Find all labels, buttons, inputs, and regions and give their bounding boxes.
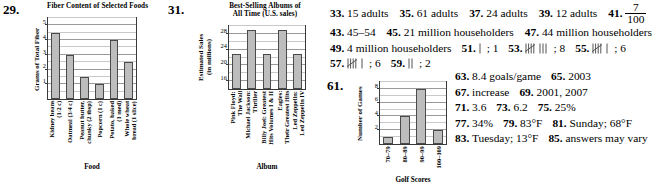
y-axis-label-fiber: Grams of Total Fiber xyxy=(33,18,43,100)
answer-number: 77. xyxy=(455,117,469,129)
answer-number: 35. xyxy=(400,7,414,19)
answer-number: 37. xyxy=(469,7,483,19)
answer-text: 25% xyxy=(555,101,576,113)
bar-cell xyxy=(397,82,414,144)
x-axis-title-fiber: Food xyxy=(47,163,137,171)
answer-item: 77. 34% xyxy=(455,117,493,129)
answer-text: Sunday; 68°F xyxy=(570,117,632,129)
x-label-cell: Led Zeppelin: Led Zeppelin IV xyxy=(290,91,306,145)
answer-number: 51. xyxy=(462,42,476,54)
bar-cell xyxy=(290,26,305,89)
x-label-cell: Eagles: Their Greatest Hits xyxy=(275,91,291,145)
answer-number: 67. xyxy=(455,86,469,98)
answers-row-33-41: 33. 15 adults35. 61 adults37. 24 adults3… xyxy=(330,2,669,25)
answers-row: 77. 34%79. 83°F81. Sunday; 68°F xyxy=(455,116,669,132)
x-label-cell: 90–99 xyxy=(413,146,430,168)
answers-right-block: 63. 8.4 goals/game65. 200367. increase69… xyxy=(455,69,669,147)
y-axis-label-golf: Number of Games xyxy=(356,82,366,146)
answer-number: 69. xyxy=(519,86,533,98)
bar-group xyxy=(48,18,136,99)
answer-number: 73. xyxy=(496,101,510,113)
x-label-cell: Pink Floyd: The Wall xyxy=(228,91,244,145)
y-axis-label-albums-line1: Estimated Sales xyxy=(197,26,205,88)
answer-item: 71. 3.6 xyxy=(455,101,486,113)
answer-text: increase xyxy=(472,86,509,98)
x-axis-labels-golf: 70–7980–8990–99100–109 xyxy=(379,146,447,168)
x-tick-label: 70–79 xyxy=(384,146,391,168)
answer-item: 85. answers may vary xyxy=(548,132,647,144)
x-tick-label: 100–109 xyxy=(435,146,442,168)
answer-number: 59. xyxy=(391,57,405,69)
answer-text: 34% xyxy=(472,117,493,129)
answer-text: 8.4 goals/game xyxy=(472,70,541,82)
exercise-number-31: 31. xyxy=(168,3,184,16)
answer-item: 57. ; 6 xyxy=(330,57,381,69)
x-tick-label: Peanut butter, chunky (2 tbsp) xyxy=(78,101,92,144)
answers-row: 63. 8.4 goals/game65. 2003 xyxy=(455,69,669,85)
chart-title-albums: Best-Selling Albums of All Time (U.S. sa… xyxy=(205,2,325,19)
answer-number: 65. xyxy=(551,70,565,82)
answer-item: 39. 12 adults xyxy=(539,7,598,19)
answer-number: 81. xyxy=(552,117,566,129)
bar xyxy=(247,30,256,89)
x-tick-label: 80–89 xyxy=(401,146,408,168)
chart-title-albums-line2: All Time (U.S. sales) xyxy=(205,10,325,18)
answer-text: 6.2 xyxy=(513,101,527,113)
bar-cell xyxy=(380,82,397,144)
x-axis-title-golf: Golf Scores xyxy=(374,176,452,184)
bar-cell xyxy=(229,26,244,89)
tally-marks xyxy=(479,43,487,54)
x-tick-label: Popcorn (1 c) xyxy=(96,101,103,144)
exercise-number-61: 61. xyxy=(327,79,343,92)
answers-row: 67. increase69. 2001, 2007 xyxy=(455,85,669,101)
bar-cell xyxy=(275,26,290,89)
answers-row-49-55: 49. 4 million householders51. ; 153. ; 8… xyxy=(330,41,669,57)
bar xyxy=(51,33,60,99)
bar-group xyxy=(380,82,446,144)
x-tick-label: Potato, baked (1 med) xyxy=(108,101,122,144)
exercise-number-29: 29. xyxy=(3,3,19,16)
plot-area-fiber: 12345 xyxy=(47,17,137,100)
answer-number: 55. xyxy=(575,42,589,54)
answer-number: 85. xyxy=(548,132,562,144)
answer-text: 12 adults xyxy=(556,7,597,19)
answer-text: 3.6 xyxy=(472,101,486,113)
x-axis-labels-fiber: Kidney beans (1/2 c)Oatmeal (3/4 c)Peanu… xyxy=(47,101,137,144)
answer-number: 71. xyxy=(455,101,469,113)
tally-marks xyxy=(525,43,553,54)
answer-number: 79. xyxy=(503,117,517,129)
answer-item: 35. 61 adults xyxy=(400,7,459,19)
bar-cell xyxy=(63,18,78,99)
x-tick-label: Michael Jackson: Thriller xyxy=(244,91,258,145)
answer-text: answers may vary xyxy=(566,132,648,144)
bar xyxy=(232,54,241,89)
fraction-denominator: 100 xyxy=(625,14,646,25)
bar-group xyxy=(229,26,305,89)
answers-row-43-47: 43. 45–5445. 21 million householders47. … xyxy=(330,25,669,41)
x-tick-label: Led Zeppelin: Led Zeppelin IV xyxy=(291,91,305,145)
bar-cell xyxy=(107,18,122,99)
x-label-cell: Whole wheat bread (1 slice) xyxy=(122,101,137,144)
answer-text: ; 2 xyxy=(419,57,431,69)
bar-cell xyxy=(259,26,274,89)
answer-key-page: 29. Fiber Content of Selected Foods Gram… xyxy=(0,0,669,188)
y-axis-label-albums-line2: (in millions) xyxy=(205,26,213,88)
answer-number: 83. xyxy=(455,132,469,144)
x-label-cell: Kidney beans (1/2 c) xyxy=(47,101,62,144)
answer-text: ; 1 xyxy=(487,42,499,54)
bar-cell xyxy=(413,82,430,144)
answers-top-block: 33. 15 adults35. 61 adults37. 24 adults3… xyxy=(330,2,669,72)
bar-cell xyxy=(48,18,63,99)
bar xyxy=(433,130,443,144)
x-label-cell: Potato, baked (1 med) xyxy=(107,101,122,144)
answers-row: 83. Tuesday; 13°F85. answers may vary xyxy=(455,131,669,147)
x-label-cell: Peanut butter, chunky (2 tbsp) xyxy=(77,101,92,144)
x-tick-label: Pink Floyd: The Wall xyxy=(229,91,243,145)
answer-text: ; 8 xyxy=(553,42,565,54)
answer-text: 2001, 2007 xyxy=(537,86,588,98)
answer-number: 63. xyxy=(455,70,469,82)
bar xyxy=(263,54,272,89)
plot-area-golf: 2468 xyxy=(379,81,447,145)
answer-item: 81. Sunday; 68°F xyxy=(552,117,632,129)
answer-item: 59. ; 2 xyxy=(391,57,431,69)
